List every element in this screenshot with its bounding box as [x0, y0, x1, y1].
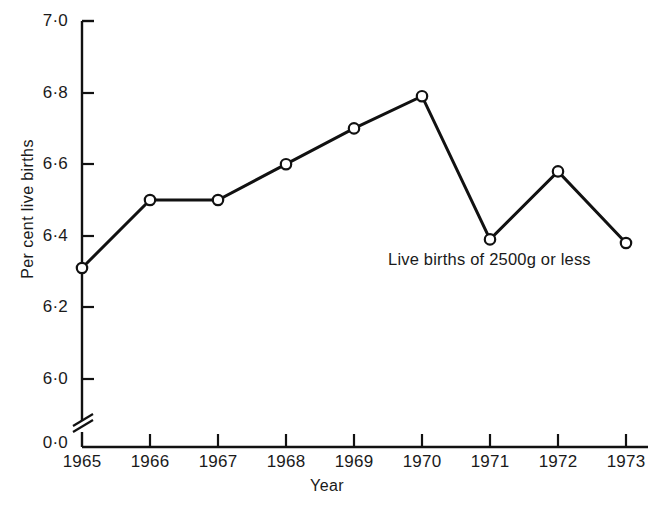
chart-figure: Per cent live births Year 7·0 6·8 6·6 6·…: [0, 0, 654, 515]
data-point: [281, 159, 291, 169]
data-point: [485, 234, 495, 244]
data-point: [349, 123, 359, 133]
x-tick-marks: [150, 434, 626, 447]
series-line: [82, 96, 626, 268]
data-point: [621, 238, 631, 248]
data-point: [213, 195, 223, 205]
data-point: [553, 166, 563, 176]
y-tick-marks: [82, 93, 94, 379]
data-point: [417, 91, 427, 101]
data-point: [77, 263, 87, 273]
plot-canvas: [0, 0, 654, 515]
axis-lines: [82, 21, 648, 447]
data-point: [145, 195, 155, 205]
